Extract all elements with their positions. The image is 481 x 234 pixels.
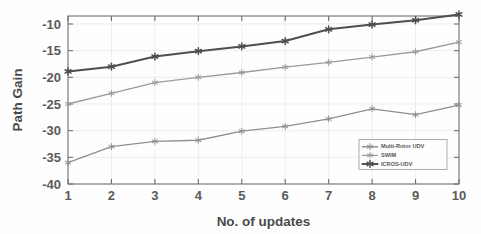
series-icros-udv (65, 11, 462, 75)
series-line (68, 14, 459, 71)
y-tick-label: -15 (42, 43, 61, 58)
chart-legend[interactable]: Multi-Rotor UDVSWIMICROS-UDV (359, 140, 447, 170)
legend-label: Multi-Rotor UDV (381, 143, 424, 149)
x-tick-label: 4 (195, 188, 203, 203)
y-tick-label: -40 (42, 177, 61, 192)
y-tick-label: -10 (42, 17, 61, 32)
x-tick-label: 3 (151, 188, 158, 203)
series-swim (65, 39, 461, 107)
path-gain-line-chart: -10-15-20-25-30-35-40 12345678910 No. of… (0, 0, 481, 234)
y-tick-labels: -10-15-20-25-30-35-40 (42, 17, 61, 192)
x-tick-label: 2 (108, 188, 115, 203)
x-tick-label: 7 (325, 188, 332, 203)
y-tick-label: -20 (42, 70, 61, 85)
chart-figure: -10-15-20-25-30-35-40 12345678910 No. of… (0, 0, 481, 234)
x-tick-label: 1 (64, 188, 71, 203)
x-tick-label: 5 (238, 188, 245, 203)
x-axis-title: No. of updates (217, 214, 311, 229)
x-tick-labels: 12345678910 (64, 188, 466, 203)
y-axis-title: Path Gain (10, 68, 25, 131)
legend-label: ICROS-UDV (381, 161, 413, 167)
x-tick-label: 6 (282, 188, 289, 203)
legend-label: SWIM (381, 152, 397, 158)
y-tick-label: -35 (42, 150, 61, 165)
x-tick-label: 10 (452, 188, 466, 203)
x-tick-label: 9 (412, 188, 419, 203)
legend-entry-icros-udv[interactable]: ICROS-UDV (363, 161, 413, 168)
series-line (68, 42, 459, 104)
x-tick-label: 8 (368, 188, 375, 203)
y-tick-label: -30 (42, 123, 61, 138)
y-tick-label: -25 (42, 97, 61, 112)
